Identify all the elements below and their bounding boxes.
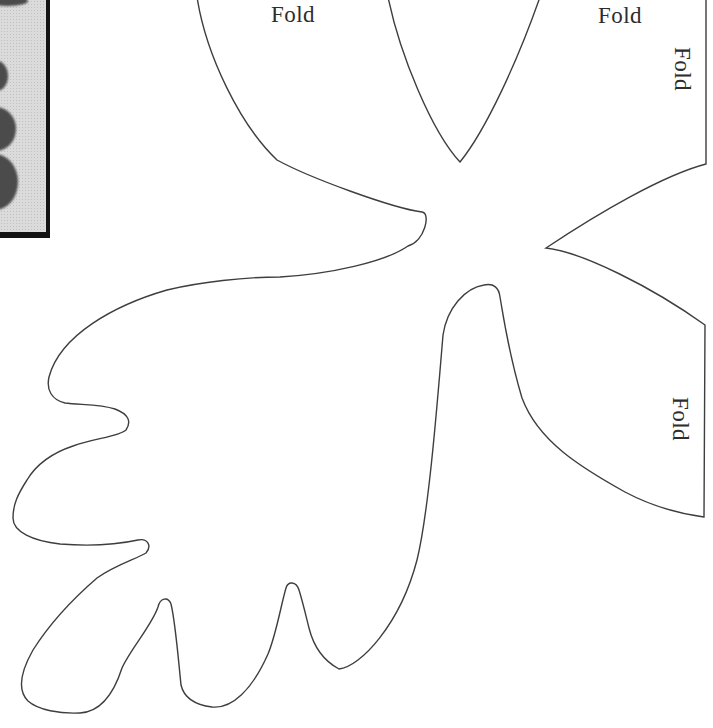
fold-label-top-left: Fold [271,2,315,28]
fold-label-right-lower: Fold [667,397,693,441]
leaf-photo-silhouettes [0,0,46,232]
pattern-page: Fold Fold Fold Fold [0,0,713,728]
fold-label-right-upper: Fold [669,47,695,91]
top-notch-path [388,0,540,162]
leaf-outline-path [13,0,706,713]
photo-leaf-blob-1 [0,61,8,91]
photo-leaf-blob-3 [0,154,18,210]
fold-label-top-right: Fold [598,3,642,29]
photo-smudge-top [0,0,28,6]
leaf-pattern-drawing [0,0,713,728]
leaf-photo-thumbnail [0,0,50,238]
photo-leaf-blob-2 [0,107,16,151]
